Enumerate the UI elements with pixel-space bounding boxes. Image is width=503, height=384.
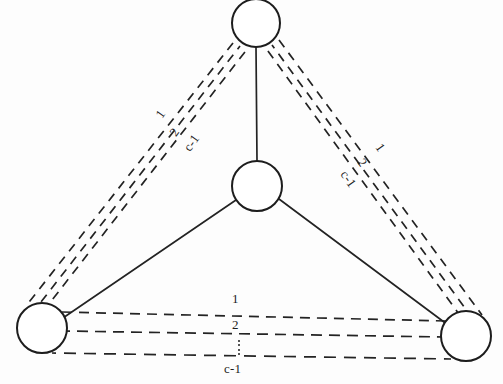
dashed-edge-bb-2 [63, 331, 445, 337]
edge-center-bottom-right [279, 199, 448, 325]
node-top[interactable] [232, 0, 280, 47]
bundle-bottom-left-bottom-right [52, 312, 451, 359]
graph-drawing [0, 0, 503, 384]
node-center[interactable] [232, 161, 282, 211]
edge-center-bottom-left [60, 200, 236, 320]
bundle-top-bottom-left [26, 43, 248, 313]
nodes [17, 0, 491, 361]
dashed-edge-tr-2 [272, 45, 473, 319]
dashed-edge-tr-3 [265, 47, 464, 321]
node-bottom-left[interactable] [17, 303, 67, 353]
dashed-edge-tl-1 [26, 43, 233, 306]
label-bottom-bundle-1: 1 [232, 292, 239, 305]
figure-canvas: 1 2 c-1 1 2 c-1 1 2 c-1 [0, 0, 503, 384]
node-bottom-right[interactable] [441, 311, 491, 361]
dashed-edge-tl-2 [34, 46, 240, 311]
dashed-edge-bb-3 [52, 353, 451, 359]
dashed-edge-tl-3 [42, 48, 248, 313]
label-bottom-bundle-2: 2 [232, 318, 239, 331]
bundle-top-bottom-right [265, 40, 482, 321]
label-bottom-bundle-c-minus-1: c-1 [224, 362, 241, 375]
edge-center-top [256, 47, 257, 161]
vertical-ellipsis-icon [238, 337, 240, 358]
dashed-edge-bb-1 [62, 312, 446, 321]
